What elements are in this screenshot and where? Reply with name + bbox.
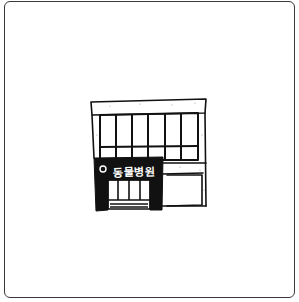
annex-window — [167, 175, 202, 206]
sign-text: 동물병원 — [113, 165, 155, 179]
sign-label: 동물병원 — [100, 162, 163, 180]
building-illustration — [0, 0, 299, 302]
